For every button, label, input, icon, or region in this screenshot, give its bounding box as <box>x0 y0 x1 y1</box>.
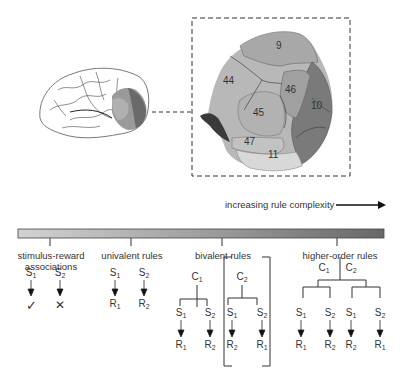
symbol-r2: R2 <box>134 298 154 310</box>
area-label-44: 44 <box>223 75 234 86</box>
brain-illustration <box>40 68 149 138</box>
symbol-s1: S1 <box>291 307 311 319</box>
figure-graphics <box>0 0 400 378</box>
area-label-9: 9 <box>276 40 282 51</box>
symbol-s1: S1 <box>105 267 125 279</box>
symbol-r1: R1 <box>171 339 191 351</box>
symbol-r1: R1 <box>105 298 125 310</box>
symbol-c1: C1 <box>187 271 207 283</box>
symbol-s1: S1 <box>171 307 191 319</box>
category-higher-order: higher-order rules <box>300 250 380 261</box>
symbol-s1: S1 <box>222 307 242 319</box>
symbol-r2: R2 <box>320 339 340 351</box>
symbol-s1: S1 <box>341 307 361 319</box>
symbol-c2: C2 <box>232 271 252 283</box>
area-label-45: 45 <box>253 107 264 118</box>
symbol-c1: C1 <box>314 262 334 274</box>
category-label-line1: stimulus-reward <box>8 250 94 261</box>
area-label-46: 46 <box>285 84 296 95</box>
symbol-r2: R2 <box>341 339 361 351</box>
bar-ticks <box>50 238 337 246</box>
category-univalent: univalent rules <box>96 250 168 261</box>
symbol-s2: S2 <box>320 307 340 319</box>
symbol-s2: S2 <box>50 267 70 279</box>
area-label-10: 10 <box>311 100 322 111</box>
complexity-axis-label: increasing rule complexity <box>225 199 334 210</box>
symbol-c2: C2 <box>341 262 361 274</box>
symbol-s2: S2 <box>370 307 390 319</box>
symbol-r1: R1 <box>291 339 311 351</box>
symbol-r2: R2 <box>222 339 242 351</box>
check-icon: ✓ <box>21 298 41 313</box>
cross-icon: ✕ <box>50 298 70 312</box>
symbol-r1: R1 <box>252 339 272 351</box>
symbol-r2: R2 <box>200 339 220 351</box>
symbol-s2: S2 <box>252 307 272 319</box>
arrow-head-icon <box>378 201 386 209</box>
symbol-s2: S2 <box>200 307 220 319</box>
symbol-s1: S1 <box>21 267 41 279</box>
category-bivalent: bivalent rules <box>192 250 254 261</box>
symbol-r1: R1 <box>370 339 390 351</box>
area-label-11: 11 <box>268 149 278 160</box>
area-label-47: 47 <box>244 136 255 147</box>
complexity-bar <box>18 229 384 238</box>
symbol-s2: S2 <box>134 267 154 279</box>
